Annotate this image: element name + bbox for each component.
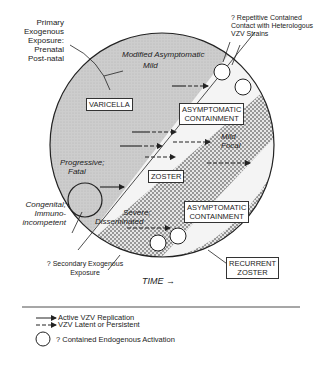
text-line: CONTAINMENT xyxy=(187,212,246,221)
text-line: ? Repetitive Contained xyxy=(231,14,313,22)
text-line: Mild xyxy=(221,132,241,141)
text-line: ASYMPTOMATIC xyxy=(187,203,246,212)
legend-endogenous-activation: ? Contained Endogenous Activation xyxy=(56,335,175,344)
text-line: Exposure: xyxy=(10,36,64,45)
region-asymptomatic-containment-top: ASYMPTOMATIC CONTAINMENT xyxy=(179,103,244,125)
region-recurrent-zoster: RECURRENT ZOSTER xyxy=(226,257,279,279)
progressive-fatal-label: Progressive; Fatal xyxy=(60,158,104,176)
text-line: Congenital; xyxy=(14,200,66,209)
text-line: Focal xyxy=(221,141,241,150)
text-line: Prenatal xyxy=(10,45,64,54)
text-line: ? Secondary Exogenous xyxy=(40,259,130,268)
congenital-label: Congenital; Immuno- incompetent xyxy=(14,200,66,227)
secondary-exposure-label: ? Secondary Exogenous Exposure xyxy=(40,259,130,277)
text-line: Progressive; xyxy=(60,158,104,167)
text-line: RECURRENT xyxy=(229,259,276,268)
text-line: Severe; xyxy=(95,208,151,217)
region-varicella: VARICELLA xyxy=(86,98,133,111)
region-zoster: ZOSTER xyxy=(148,170,184,183)
text-line: VZV Strains xyxy=(231,30,313,38)
text-line: Primary xyxy=(10,18,64,27)
modified-asymptomatic-label: Modified Asymptomatic xyxy=(122,50,204,59)
text-line: Exposure xyxy=(40,268,130,277)
primary-exposure-label: Primary Exogenous Exposure: Prenatal Pos… xyxy=(10,18,64,63)
mild-label: Mild xyxy=(143,61,158,70)
repetitive-contact-label: ? Repetitive Contained Contact with Hete… xyxy=(231,14,313,38)
text-line: Disseminated xyxy=(95,217,151,226)
text-line: incompetent xyxy=(14,218,66,227)
text-line: ASYMPTOMATIC xyxy=(182,105,241,114)
legend-latent-persistent: VZV Latent or Persistent xyxy=(58,320,140,329)
text-line: Exogenous xyxy=(10,27,64,36)
severe-disseminated-label: Severe; Disseminated xyxy=(95,208,151,226)
mild-focal-label: Mild Focal xyxy=(221,132,241,150)
text-line: Immuno- xyxy=(14,209,66,218)
region-asymptomatic-containment-bottom: ASYMPTOMATIC CONTAINMENT xyxy=(184,201,249,223)
time-axis-label: TIME → xyxy=(142,277,175,286)
text-line: Fatal xyxy=(60,167,104,176)
text-line: Post-natal xyxy=(10,54,64,63)
text-line: Contact with Heterologous xyxy=(231,22,313,30)
text-line: CONTAINMENT xyxy=(182,114,241,123)
text-line: ZOSTER xyxy=(229,268,276,277)
